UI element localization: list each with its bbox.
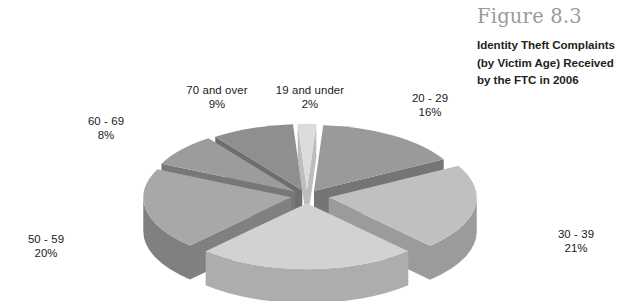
pie-label-percent-70-and-over: 9%	[186, 98, 247, 112]
pie-label-percent-19-and-under: 2%	[276, 98, 344, 112]
pie-label-70-and-over: 70 and over9%	[186, 84, 247, 112]
pie-label-name-30-39: 30 - 39	[558, 228, 594, 242]
figure-page: Figure 8.3 Identity Theft Complaints (by…	[0, 0, 626, 301]
pie-label-30-39: 30 - 3921%	[558, 228, 594, 256]
pie-label-19-and-under: 19 and under2%	[276, 84, 344, 112]
pie-label-50-59: 50 - 5920%	[28, 233, 64, 261]
pie-label-name-19-and-under: 19 and under	[276, 84, 344, 98]
pie-label-60-69: 60 - 698%	[88, 115, 124, 143]
pie-chart-svg	[0, 0, 626, 301]
pie-label-percent-60-69: 8%	[88, 129, 124, 143]
pie-label-name-20-29: 20 - 29	[412, 92, 448, 106]
pie-label-name-60-69: 60 - 69	[88, 115, 124, 129]
pie-label-percent-50-59: 20%	[28, 247, 64, 261]
pie-label-percent-30-39: 21%	[558, 242, 594, 256]
pie-label-name-70-and-over: 70 and over	[186, 84, 247, 98]
pie-chart: 19 and under2%20 - 2916%30 - 3921%50 - 5…	[0, 0, 626, 301]
pie-label-percent-20-29: 16%	[412, 106, 448, 120]
pie-label-20-29: 20 - 2916%	[412, 92, 448, 120]
pie-label-name-50-59: 50 - 59	[28, 233, 64, 247]
